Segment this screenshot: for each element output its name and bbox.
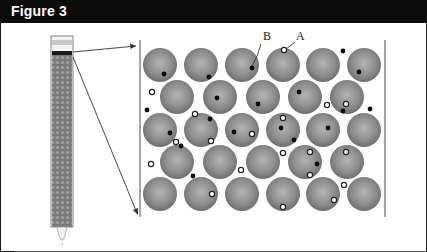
resin-bead <box>160 80 194 114</box>
zoom-arrows <box>73 44 138 216</box>
label-a-text: A <box>296 29 305 43</box>
column-solvent <box>52 40 72 45</box>
ring-particle <box>343 149 348 154</box>
dark-particle <box>168 131 173 136</box>
dark-particle <box>250 66 255 71</box>
dark-particle <box>315 162 320 167</box>
resin-bead <box>306 48 340 82</box>
resin-bead <box>225 113 259 147</box>
label-a: A <box>286 29 305 49</box>
dark-particle <box>179 144 184 149</box>
dark-particle <box>297 90 302 95</box>
label-a-pointer <box>286 42 295 49</box>
resin-bead <box>203 80 237 114</box>
dark-particle <box>357 70 362 75</box>
arrow-bottom <box>73 57 137 213</box>
ring-particle <box>249 131 254 136</box>
ring-particle <box>208 138 213 143</box>
column-packing <box>52 55 72 227</box>
dark-particle <box>207 75 212 80</box>
ring-particle <box>341 182 346 187</box>
dark-particle <box>232 130 237 135</box>
ring-particle <box>280 150 285 155</box>
chromatography-diagram: B A <box>0 0 427 252</box>
ring-particle <box>149 89 154 94</box>
ring-particle <box>280 115 285 120</box>
resin-bead <box>225 177 259 211</box>
resin-bead <box>330 80 364 114</box>
resin-bead <box>288 80 322 114</box>
ring-particle <box>238 167 243 172</box>
dark-particle <box>215 96 220 101</box>
resin-bead <box>306 113 340 147</box>
resin-bead <box>184 48 218 82</box>
ring-particle <box>280 204 285 209</box>
ring-particle <box>192 111 197 116</box>
dark-particle <box>162 72 167 77</box>
ring-particle <box>148 161 153 166</box>
resin-bead <box>246 145 280 179</box>
ring-particle <box>281 47 286 52</box>
ring-particle <box>331 197 336 202</box>
column-outlet-tip <box>57 227 67 240</box>
resin-bead <box>306 177 340 211</box>
resin-bead <box>347 48 381 82</box>
label-b-text: B <box>263 29 271 43</box>
resin-bead <box>347 177 381 211</box>
resin-bead <box>225 48 259 82</box>
ring-particle <box>307 172 312 177</box>
arrow-top-head <box>130 44 136 50</box>
dark-particle <box>368 107 373 112</box>
resin-bead <box>160 145 194 179</box>
dark-particle <box>292 138 297 143</box>
ring-particle <box>209 191 214 196</box>
ring-particle <box>173 139 178 144</box>
ring-particle <box>307 149 312 154</box>
column-sample-band <box>52 51 72 55</box>
resin-bead <box>203 145 237 179</box>
ring-particle <box>324 102 329 107</box>
dark-particle <box>208 117 213 122</box>
arrow-top <box>73 46 136 52</box>
arrow-bottom-head <box>133 208 138 215</box>
resin-bead <box>347 113 381 147</box>
ring-particle <box>343 101 348 106</box>
dark-particle <box>326 126 331 131</box>
dark-particle <box>341 109 346 114</box>
resin-bead <box>143 48 177 82</box>
resin-bead <box>143 177 177 211</box>
column <box>51 36 73 245</box>
dark-particle <box>191 174 196 179</box>
resin-bead <box>143 113 177 147</box>
dark-particle <box>279 126 284 131</box>
dark-particle <box>341 49 346 54</box>
drip-dot <box>61 243 63 245</box>
resin-bead <box>246 80 280 114</box>
resin-bead <box>266 48 300 82</box>
dark-particle <box>256 102 261 107</box>
dark-particle <box>145 108 150 113</box>
